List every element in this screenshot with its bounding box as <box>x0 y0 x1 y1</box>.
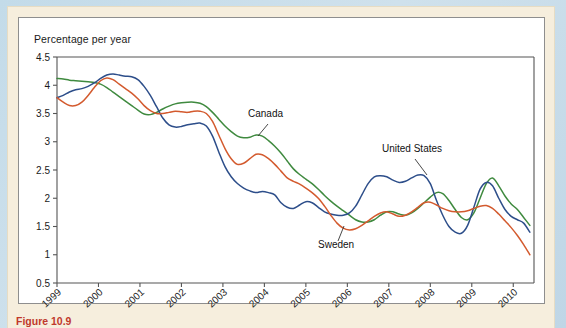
svg-text:1999: 1999 <box>39 286 63 309</box>
annotation-leader-canada <box>258 124 268 136</box>
svg-text:2008: 2008 <box>413 286 437 309</box>
svg-text:1.5: 1.5 <box>36 221 50 232</box>
svg-text:2006: 2006 <box>330 286 354 309</box>
series-lines <box>57 74 530 255</box>
svg-text:2005: 2005 <box>288 286 312 309</box>
line-chart: 4.543.532.521.510.5199920002001200220032… <box>0 0 566 328</box>
svg-text:2007: 2007 <box>371 286 395 309</box>
y-axis-ticks: 4.543.532.521.510.5 <box>36 52 57 289</box>
svg-text:4: 4 <box>44 80 50 91</box>
svg-text:2009: 2009 <box>454 286 478 309</box>
annotation-label-sweden: Sweden <box>318 239 354 250</box>
series-line-united-states <box>57 74 530 234</box>
figure-caption: Figure 10.9 <box>16 315 71 327</box>
svg-text:2000: 2000 <box>81 286 105 309</box>
svg-text:3.5: 3.5 <box>36 108 50 119</box>
svg-text:2.5: 2.5 <box>36 165 50 176</box>
x-axis-ticks: 1999200020012002200320042005200620072008… <box>39 283 519 309</box>
svg-text:3: 3 <box>44 136 50 147</box>
svg-text:2004: 2004 <box>247 286 271 309</box>
svg-text:1: 1 <box>44 249 50 260</box>
svg-text:2002: 2002 <box>164 286 188 309</box>
series-line-sweden <box>57 78 530 255</box>
series-line-canada <box>57 78 530 225</box>
svg-text:2010: 2010 <box>496 286 520 309</box>
svg-text:2003: 2003 <box>205 286 229 309</box>
figure-container: Percentage per year 4.543.532.521.510.51… <box>0 0 566 328</box>
svg-text:2: 2 <box>44 193 50 204</box>
svg-text:0.5: 0.5 <box>36 278 50 289</box>
annotation-label-united-states: United States <box>382 143 442 154</box>
annotation-leader-united-states <box>415 159 427 175</box>
svg-text:4.5: 4.5 <box>36 52 50 63</box>
svg-text:2001: 2001 <box>122 286 146 309</box>
annotation-label-canada: Canada <box>248 108 283 119</box>
